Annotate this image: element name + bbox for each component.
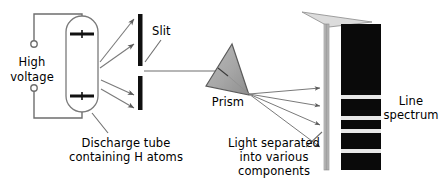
ray-tube-4 bbox=[101, 89, 134, 108]
prism-triangle bbox=[206, 44, 249, 95]
spectrum-line-3 bbox=[341, 129, 381, 133]
label-high-voltage-line1: High bbox=[19, 55, 46, 69]
ray-dispersed-2 bbox=[249, 94, 320, 106]
slit-leader-line bbox=[145, 40, 161, 62]
label-line-spectrum-line1: Line bbox=[399, 94, 423, 108]
prism bbox=[206, 44, 249, 95]
spectrum-line-1 bbox=[341, 95, 381, 99]
diagram-canvas: High voltage Slit Prism Discharge tube c… bbox=[0, 0, 445, 186]
slit-bar-upper bbox=[138, 14, 143, 66]
terminal-top bbox=[31, 41, 37, 47]
spectroscopy-diagram: High voltage Slit Prism Discharge tube c… bbox=[0, 0, 445, 186]
screen-plate bbox=[324, 24, 329, 170]
ray-dispersed-1 bbox=[249, 88, 320, 94]
label-slit: Slit bbox=[152, 24, 171, 38]
discharge-tube bbox=[66, 16, 98, 112]
label-line-spectrum-line2: spectrum bbox=[383, 108, 438, 122]
label-light-separated-line1: Light separated bbox=[228, 136, 320, 150]
label-discharge-tube-line2: containing H atoms bbox=[69, 150, 183, 164]
leader-discharge-tube bbox=[92, 113, 108, 133]
slit-bar-lower bbox=[138, 76, 143, 110]
ray-tube-3 bbox=[101, 80, 134, 95]
label-high-voltage-line2: voltage bbox=[10, 70, 54, 84]
label-light-separated-line3: components bbox=[238, 164, 310, 178]
label-discharge-tube-line1: Discharge tube bbox=[82, 136, 171, 150]
line-spectrum-plate bbox=[341, 24, 381, 170]
terminal-bottom bbox=[31, 85, 37, 91]
label-prism: Prism bbox=[212, 95, 244, 109]
spectrum-line-4 bbox=[341, 149, 381, 153]
spectrum-line-2 bbox=[341, 116, 381, 120]
label-light-separated-line2: into various bbox=[240, 150, 309, 164]
rays-tube-to-slit bbox=[100, 19, 134, 108]
